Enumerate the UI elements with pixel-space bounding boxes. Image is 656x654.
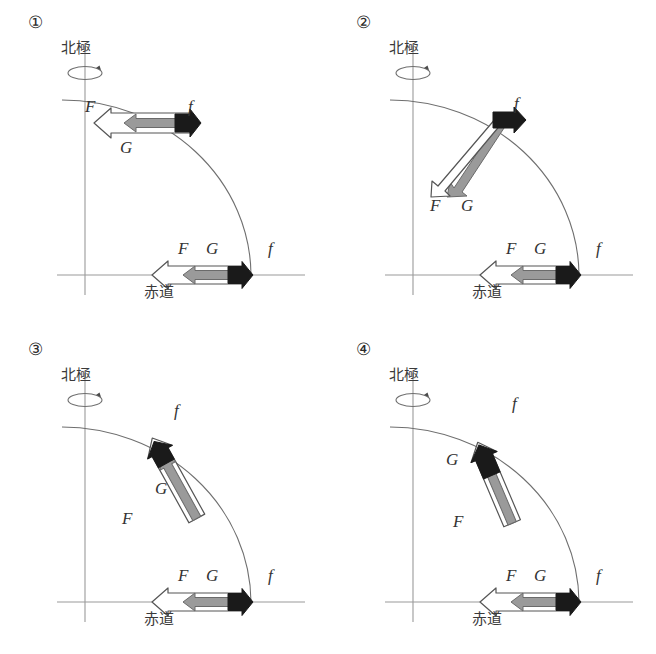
label-F-upper: F [85,98,95,115]
label-F-equator: F [506,240,516,257]
label-G-upper: G [155,480,167,497]
label-G-equator: G [206,240,218,257]
panel-number: ② [356,14,371,31]
equator-label: 赤道 [144,612,174,627]
label-F-upper: F [122,510,132,527]
vector-G-upper [447,120,506,197]
panel-number: ④ [356,341,371,358]
label-G-upper: G [120,139,132,156]
label-F-equator: F [178,240,188,257]
label-f-equator: f [596,240,601,257]
label-f-equator: f [268,240,273,257]
label-f-upper: f [188,98,193,115]
label-F-upper: F [430,197,440,214]
label-G-equator: G [534,567,546,584]
north-pole-label: 北極 [389,368,419,383]
panel-3: ③ 北極 赤道 F G f F G f [0,327,328,654]
panel-1-graphic [0,0,328,327]
label-f-equator: f [596,567,601,584]
panel-4-graphic [328,327,656,654]
north-pole-label: 北極 [389,41,419,56]
panel-1: ① 北極 赤道 F G f F G f [0,0,328,327]
label-G-upper: G [461,197,473,214]
label-f-upper: f [514,95,519,112]
panel-number: ③ [28,341,43,358]
panel-2: ② 北極 赤道 F G f F G f [328,0,656,327]
label-F-equator: F [506,567,516,584]
vector-F-upper-group [140,431,209,525]
north-pole-label: 北極 [61,368,91,383]
label-f-equator: f [268,567,273,584]
label-G-equator: G [206,567,218,584]
label-G-upper: G [446,451,458,468]
label-G-equator: G [534,240,546,257]
panel-4: ④ 北極 赤道 F G f F G f [328,327,656,654]
panel-2-graphic [328,0,656,327]
label-f-upper: f [512,395,517,412]
equator-label: 赤道 [472,285,502,300]
label-F-equator: F [178,567,188,584]
equator-label: 赤道 [472,612,502,627]
globe-arc [390,100,579,275]
panel-number: ① [28,14,43,31]
equator-label: 赤道 [144,285,174,300]
label-F-upper: F [453,513,463,530]
north-pole-label: 北極 [61,41,91,56]
label-f-upper: f [174,402,179,419]
